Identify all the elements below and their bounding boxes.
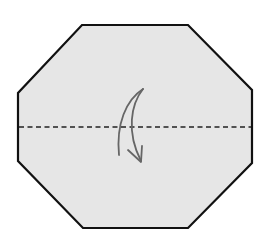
origami-diagram: Valley fold the octagon in half along th…: [0, 0, 270, 240]
diagram-svg: [0, 0, 270, 240]
